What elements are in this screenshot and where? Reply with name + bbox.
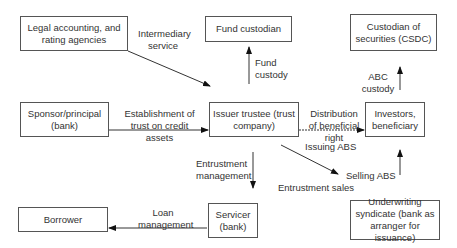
selling-abs-label: Selling ABS bbox=[346, 170, 396, 182]
establishment-label: Establishment of trust on credit assets bbox=[117, 108, 202, 144]
csdc-box: Custodian of securities (CSDC) bbox=[350, 14, 437, 51]
issuing-abs-label: Issuing ABS bbox=[305, 141, 356, 153]
fund-custody-label: Fund custody bbox=[255, 57, 297, 81]
servicer-box: Servicer (bank) bbox=[208, 203, 258, 238]
abc-custody-label: ABC custody bbox=[360, 71, 396, 95]
entrustment-management-label: Entrustment management bbox=[196, 158, 246, 182]
fund-custodian-box: Fund custodian bbox=[205, 16, 292, 42]
distribution-label: Distribution of beneficial right bbox=[305, 108, 363, 144]
sponsor-box: Sponsor/principal (bank) bbox=[20, 102, 109, 137]
legal-agencies-box: Legal accounting, and rating agencies bbox=[20, 16, 128, 51]
borrower-box: Borrower bbox=[18, 207, 108, 232]
issuer-trustee-box: Issuer trustee (trust company) bbox=[209, 102, 299, 137]
entrustment-sales-label: Entrustment sales bbox=[278, 182, 354, 194]
investors-box: Investors, beneficiary bbox=[365, 102, 425, 137]
loan-management-label: Loan management bbox=[138, 207, 188, 231]
intermediary-label: Intermediary service bbox=[138, 28, 188, 52]
underwriting-box: Underwriting syndicate (bank as arranger… bbox=[350, 200, 440, 240]
